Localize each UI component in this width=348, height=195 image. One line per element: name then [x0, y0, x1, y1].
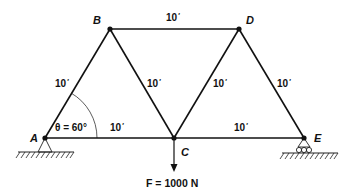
- length-label-ab: 10′: [55, 78, 69, 89]
- length-label-bd: 10′: [166, 12, 180, 23]
- node-c: [171, 135, 176, 140]
- node-label-d: D: [246, 14, 254, 26]
- length-label-ce: 10′: [234, 122, 248, 133]
- node-label-e: E: [314, 132, 322, 144]
- roller-support-icon: [280, 138, 338, 159]
- node-label-b: B: [93, 14, 101, 26]
- length-label-de: 10′: [277, 78, 291, 89]
- member-de: [239, 29, 304, 138]
- node-d: [236, 26, 241, 31]
- length-label-ac: 10′: [110, 122, 124, 133]
- node-e: [301, 135, 306, 140]
- node-b: [107, 26, 112, 31]
- pin-support-icon: [16, 138, 74, 158]
- length-label-bc: 10′: [147, 78, 161, 89]
- load-arrow-icon: [171, 138, 178, 172]
- member-cd: [174, 29, 239, 138]
- truss-svg: A B C D E 10′ 10′ 10′ 10′ 10′ 10′ 10′ θ …: [0, 0, 348, 195]
- truss-diagram: A B C D E 10′ 10′ 10′ 10′ 10′ 10′ 10′ θ …: [0, 0, 348, 195]
- force-label: F = 1000 N: [146, 177, 198, 189]
- node-a: [42, 135, 47, 140]
- node-label-a: A: [29, 132, 38, 144]
- length-label-cd: 10′: [213, 78, 227, 89]
- node-label-c: C: [181, 146, 190, 158]
- angle-label: θ = 60°: [55, 122, 87, 133]
